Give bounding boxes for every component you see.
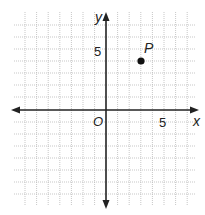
x-tick-label-5: 5 [159,115,166,130]
x-axis-label: x [192,113,201,129]
y-axis-label: y [94,9,103,25]
grid [14,12,196,205]
x-axis [11,107,199,114]
y-tick-label-5: 5 [94,44,101,59]
arrow-left-icon [11,107,20,114]
arrow-down-icon [103,200,110,209]
point-p-label: P [144,40,154,56]
arrow-up-icon [103,12,110,21]
coordinate-plane: y x O 5 5 P [0,0,205,215]
origin-label: O [93,114,103,129]
point-p [137,57,144,64]
